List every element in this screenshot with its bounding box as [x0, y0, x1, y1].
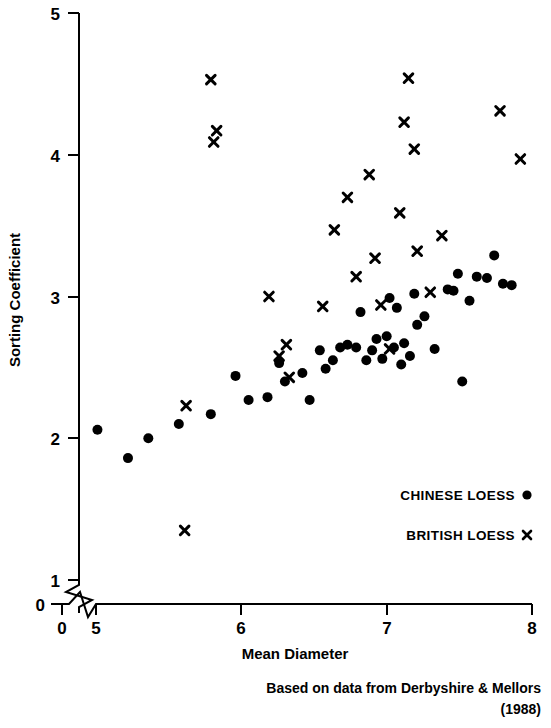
y-tick-label-5: 5 [51, 5, 60, 24]
data-point-circle [507, 280, 517, 290]
y-axis-ticks [51, 13, 79, 604]
data-point-circle [244, 395, 254, 405]
data-point-circle [449, 286, 459, 296]
data-point-circle [231, 371, 241, 381]
y-axis-break-icon [66, 580, 92, 613]
data-point-circle [262, 392, 272, 402]
legend: CHINESE LOESS BRITISH LOESS [400, 488, 531, 543]
data-point-cross-icon [404, 74, 413, 83]
series-chinese-loess [92, 250, 516, 463]
data-point-cross-icon [365, 170, 374, 179]
data-point-circle [206, 409, 216, 419]
data-point-cross-icon [410, 145, 419, 154]
data-point-cross-icon [207, 75, 216, 84]
data-point-circle [305, 395, 315, 405]
y-tick-label-2: 2 [51, 430, 60, 449]
data-point-circle [382, 331, 392, 341]
data-point-cross-icon [516, 155, 525, 164]
data-point-circle [377, 354, 387, 364]
data-point-circle [143, 433, 153, 443]
plot-svg: 5 4 3 2 1 0 0 5 6 7 8 Mean Diameter Sort… [0, 0, 551, 728]
data-point-cross-icon [426, 288, 435, 297]
data-point-circle [482, 273, 492, 283]
data-point-cross-icon [400, 118, 409, 127]
data-point-cross-icon [265, 292, 274, 301]
data-point-circle [472, 272, 482, 282]
data-point-circle [405, 351, 415, 361]
y-tick-label-3: 3 [51, 289, 60, 308]
caption-line-1: Based on data from Derbyshire & Mellors [266, 680, 541, 696]
x-tick-label-0: 0 [57, 619, 66, 638]
x-tick-label-5: 5 [91, 619, 100, 638]
x-tick-label-6: 6 [236, 619, 245, 638]
legend-label-british: BRITISH LOESS [406, 528, 515, 543]
data-point-cross-icon [282, 340, 291, 349]
data-point-circle [371, 334, 381, 344]
data-point-circle [297, 368, 307, 378]
data-point-circle [92, 425, 102, 435]
axes [79, 13, 532, 604]
data-point-circle [342, 340, 352, 350]
data-point-circle [409, 289, 419, 299]
y-tick-label-1: 1 [51, 572, 60, 591]
data-point-circle [412, 320, 422, 330]
data-point-circle [315, 345, 325, 355]
data-point-circle [453, 269, 463, 279]
data-point-circle [392, 303, 402, 313]
data-point-cross-icon [318, 302, 327, 311]
data-point-circle [498, 279, 508, 289]
data-point-circle [361, 355, 371, 365]
data-point-circle [356, 307, 366, 317]
data-point-circle [465, 296, 475, 306]
data-point-cross-icon [343, 193, 352, 202]
data-point-cross-icon [438, 231, 447, 240]
data-point-circle [351, 343, 361, 353]
x-tick-label-7: 7 [382, 619, 391, 638]
data-point-cross-icon [377, 301, 386, 310]
data-point-circle [430, 344, 440, 354]
data-point-circle [174, 419, 184, 429]
y-tick-label-0: 0 [36, 596, 45, 615]
legend-marker-british-cross-icon [523, 531, 531, 539]
y-axis-title: Sorting Coefficient [6, 233, 23, 367]
legend-marker-chinese-circle-icon [522, 490, 531, 499]
data-point-cross-icon [180, 526, 189, 535]
data-point-circle [123, 453, 133, 463]
data-point-circle [367, 345, 377, 355]
data-point-cross-icon [413, 247, 422, 256]
data-point-cross-icon [371, 254, 380, 263]
scatter-plot-figure: 5 4 3 2 1 0 0 5 6 7 8 Mean Diameter Sort… [0, 0, 551, 728]
data-point-circle [457, 377, 467, 387]
x-tick-label-8: 8 [527, 619, 536, 638]
data-point-circle [396, 360, 406, 370]
data-point-circle [419, 311, 429, 321]
data-point-cross-icon [395, 209, 404, 218]
data-point-circle [399, 338, 409, 348]
data-point-cross-icon [182, 401, 191, 410]
caption-line-2: (1988) [501, 701, 541, 717]
legend-label-chinese: CHINESE LOESS [400, 488, 515, 503]
data-point-circle [328, 355, 338, 365]
data-point-cross-icon [209, 138, 218, 147]
data-markers-group [92, 74, 524, 535]
data-point-circle [489, 250, 499, 260]
data-point-circle [321, 364, 331, 374]
y-tick-label-4: 4 [51, 147, 61, 166]
data-point-cross-icon [496, 107, 505, 116]
x-axis-ticks [62, 604, 532, 615]
x-axis-title: Mean Diameter [242, 645, 349, 662]
data-point-cross-icon [330, 226, 339, 235]
data-point-cross-icon [212, 126, 221, 135]
data-point-cross-icon [352, 272, 361, 281]
